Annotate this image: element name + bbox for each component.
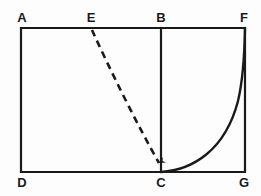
- vertex-label-b: B: [156, 11, 165, 24]
- diagram-canvas: [0, 0, 261, 196]
- vertex-label-d: D: [17, 176, 26, 189]
- vertex-label-e: E: [87, 11, 96, 24]
- vertex-label-f: F: [240, 11, 248, 24]
- vertex-label-c: C: [156, 176, 165, 189]
- geometry-diagram: A E B F D C G: [0, 0, 261, 196]
- vertex-label-a: A: [17, 11, 26, 24]
- exponential-curve-cf: [161, 28, 245, 172]
- vertex-label-g: G: [239, 176, 249, 189]
- segment-ec-dashed: [92, 30, 159, 163]
